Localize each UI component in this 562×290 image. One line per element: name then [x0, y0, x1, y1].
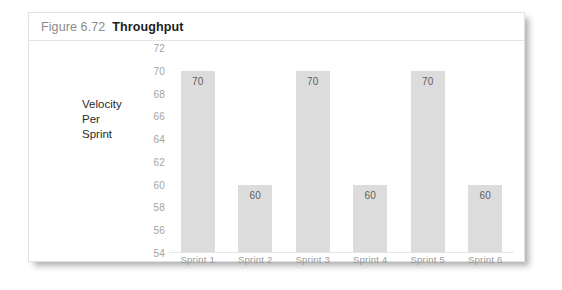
bar-value-label: 60: [353, 190, 387, 201]
bar-series: 706070607060: [169, 48, 514, 253]
figure-number: Figure 6.72: [41, 20, 105, 34]
x-axis-line: [169, 252, 514, 253]
y-axis-tick-label: 62: [147, 156, 165, 167]
y-axis-title: Velocity Per Sprint: [82, 97, 142, 142]
y-axis-tick-label: 72: [147, 43, 165, 54]
x-axis-category-label: Sprint 4: [342, 254, 400, 265]
y-axis-title-line-3: Sprint: [82, 127, 142, 142]
x-axis-category-label: Sprint 6: [457, 254, 515, 265]
y-axis-title-line-2: Per: [82, 112, 142, 127]
x-axis-labels: Sprint 1Sprint 2Sprint 3Sprint 4Sprint 5…: [169, 254, 514, 270]
y-axis-tick-label: 60: [147, 179, 165, 190]
bar-slot: 70: [411, 48, 445, 253]
x-axis-category-label: Sprint 1: [169, 254, 227, 265]
y-axis-tick-label: 54: [147, 248, 165, 259]
bar-value-label: 60: [238, 190, 272, 201]
bar-slot: 70: [181, 48, 215, 253]
bar-value-label: 60: [468, 190, 502, 201]
figure-header: Figure 6.72 Throughput: [29, 13, 524, 41]
figure-title: Throughput: [112, 20, 183, 34]
y-axis-tick-label: 56: [147, 225, 165, 236]
y-axis-tick-label: 64: [147, 134, 165, 145]
bar-value-label: 70: [296, 76, 330, 87]
bar[interactable]: 70: [296, 71, 330, 253]
screenshot-root: Figure 6.72 Throughput Velocity Per Spri…: [0, 0, 562, 290]
bar-slot: 60: [238, 48, 272, 253]
bar[interactable]: 70: [411, 71, 445, 253]
bar-slot: 60: [468, 48, 502, 253]
y-axis-tick-label: 58: [147, 202, 165, 213]
bar[interactable]: 70: [181, 71, 215, 253]
bar[interactable]: 60: [353, 185, 387, 253]
y-axis-tick-label: 66: [147, 111, 165, 122]
x-axis-category-label: Sprint 2: [227, 254, 285, 265]
bar-value-label: 70: [411, 76, 445, 87]
bar[interactable]: 60: [468, 185, 502, 253]
bar[interactable]: 60: [238, 185, 272, 253]
y-axis-tick-label: 70: [147, 65, 165, 76]
x-axis-category-label: Sprint 3: [284, 254, 342, 265]
y-axis-tick-label: 68: [147, 88, 165, 99]
plot-area: 72706866646260585654 706070607060: [169, 48, 514, 253]
chart-body: Velocity Per Sprint 72706866646260585654…: [29, 42, 524, 262]
x-axis-category-label: Sprint 5: [399, 254, 457, 265]
bar-slot: 60: [353, 48, 387, 253]
figure-card: Figure 6.72 Throughput Velocity Per Spri…: [28, 12, 525, 262]
bar-slot: 70: [296, 48, 330, 253]
bar-value-label: 70: [181, 76, 215, 87]
y-axis-title-line-1: Velocity: [82, 97, 142, 112]
